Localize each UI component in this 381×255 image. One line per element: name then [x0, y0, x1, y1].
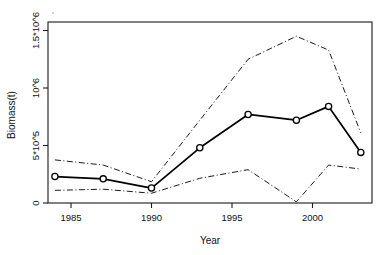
scan-artifact-speck [52, 12, 54, 14]
biomass-series-line [55, 106, 361, 188]
data-point-marker [148, 185, 154, 191]
plot-frame [48, 22, 372, 203]
y-axis-title: Biomass(t) [6, 91, 17, 139]
x-tick-label-1985: 1985 [60, 212, 81, 223]
data-point-marker [326, 103, 332, 109]
data-point-marker [100, 176, 106, 182]
x-tick-label-2000: 2000 [302, 212, 323, 223]
lower-confidence-band [55, 165, 361, 202]
x-tick-label-1990: 1990 [141, 212, 162, 223]
data-point-marker [245, 111, 251, 117]
y-tick-label-0: 0 [30, 200, 41, 205]
y-tick-label-1p5e6: 1.5*10^6 [30, 12, 41, 49]
data-point-marker [197, 145, 203, 151]
x-axis-ticks [71, 203, 313, 208]
chart-figure: 0 5*10^5 10^6 1.5*10^6 Biomass(t) 1985 1… [0, 0, 381, 255]
data-point-marker [293, 117, 299, 123]
biomass-line-chart: 0 5*10^5 10^6 1.5*10^6 Biomass(t) 1985 1… [0, 0, 381, 255]
data-point-marker [52, 173, 58, 179]
data-point-marker [358, 149, 364, 155]
upper-confidence-band [55, 36, 361, 181]
y-axis-ticks [43, 31, 48, 204]
y-tick-label-5e5: 5*10^5 [30, 131, 41, 160]
x-axis-title: Year [200, 235, 221, 246]
y-tick-label-1e6: 10^6 [30, 78, 41, 98]
x-tick-label-1995: 1995 [221, 212, 242, 223]
